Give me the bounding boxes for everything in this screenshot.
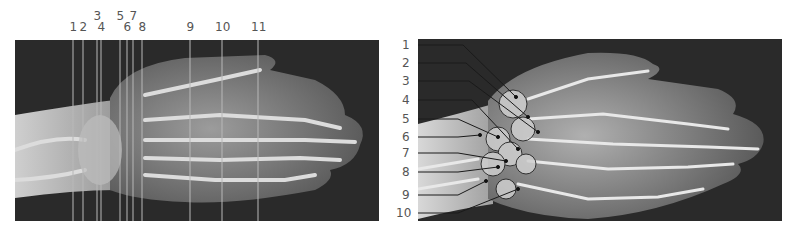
left-hand-xray: [15, 40, 379, 221]
pointer-label-5: 5: [402, 113, 410, 125]
pointer-dot-1: [514, 95, 517, 98]
carpal-region: [78, 115, 122, 185]
pointer-label-7: 7: [402, 147, 410, 159]
section-label-1: 1: [70, 21, 78, 33]
pointer-dot-4: [516, 147, 519, 150]
pointer-label-4: 4: [402, 94, 410, 106]
section-label-2: 2: [80, 21, 88, 33]
section-label-9: 9: [187, 21, 195, 33]
section-label-8: 8: [139, 21, 147, 33]
right-xray-panel: [418, 39, 782, 221]
pointer-dot-3: [536, 130, 539, 133]
pointer-label-2: 2: [402, 57, 410, 69]
pointer-dot-5: [496, 135, 499, 138]
pointer-label-3: 3: [402, 75, 410, 87]
section-label-4: 4: [98, 21, 106, 33]
left-xray-panel: [15, 40, 379, 221]
pointer-label-9: 9: [402, 189, 410, 201]
pointer-dot-8: [496, 165, 499, 168]
pointer-label-8: 8: [402, 166, 410, 178]
pointer-label-6: 6: [402, 131, 410, 143]
section-label-7: 7: [130, 10, 138, 22]
pointer-dot-2: [526, 115, 529, 118]
pointer-dot-9: [484, 179, 487, 182]
pointer-dot-7: [504, 159, 507, 162]
pointer-dot-10: [516, 187, 519, 190]
pointer-dot-6: [478, 133, 481, 136]
section-label-11: 11: [251, 21, 266, 33]
pointer-label-10: 10: [396, 207, 411, 219]
right-hand-xray: [418, 39, 782, 221]
section-label-10: 10: [215, 21, 230, 33]
pointer-label-1: 1: [402, 39, 410, 51]
